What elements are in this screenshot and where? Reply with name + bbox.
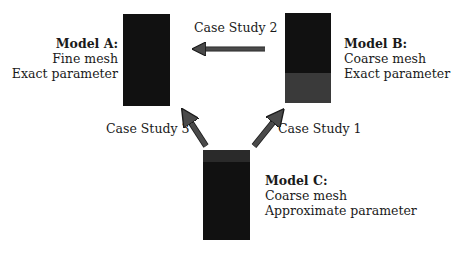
arrow-case-study-3	[186, 115, 206, 146]
arrows-layer	[0, 0, 465, 253]
arrow-case-study-1	[254, 115, 279, 146]
